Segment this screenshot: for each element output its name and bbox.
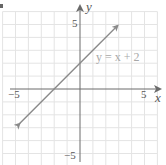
- line-graph: y x 5 −5 −5 5 y = x + 2: [0, 0, 166, 165]
- x-axis-label: x: [154, 90, 161, 105]
- x-tick-max: 5: [141, 88, 147, 100]
- y-tick-min: −5: [64, 149, 76, 161]
- equation-label: y = x + 2: [96, 50, 140, 64]
- x-tick-min: −5: [8, 88, 20, 100]
- y-axis-label: y: [84, 0, 92, 14]
- equation-line: [19, 26, 117, 124]
- y-tick-max: 5: [72, 17, 78, 29]
